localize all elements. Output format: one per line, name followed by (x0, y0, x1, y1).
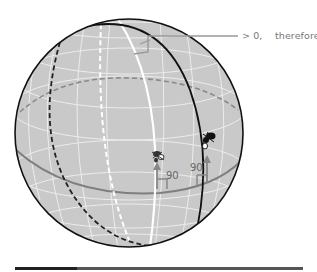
conclusion-text: therefore: Σ > 180 (275, 30, 317, 41)
angle-label-right: 90 (190, 162, 203, 173)
angle-label-left: 90 (166, 170, 179, 181)
excess-text: > 0, (242, 30, 262, 41)
bottom-rule-accent (15, 267, 77, 270)
angle-sum-annotation: > 0, therefore: Σ > 180 (242, 30, 317, 41)
